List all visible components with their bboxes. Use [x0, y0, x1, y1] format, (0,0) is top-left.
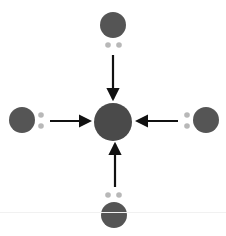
lone-pair-electron-left-1: [38, 123, 44, 129]
lone-pair-electron-bottom-0: [105, 192, 111, 198]
lone-pair-electron-bottom-1: [116, 192, 122, 198]
lone-pair-electron-right-0: [184, 112, 190, 118]
ligand-atom-left: [9, 107, 35, 133]
lone-pair-electron-top-0: [105, 42, 111, 48]
center-atom: [94, 103, 132, 141]
coordination-diagram: [0, 0, 226, 236]
ligand-atom-top: [100, 12, 126, 38]
lone-pair-electron-right-1: [184, 123, 190, 129]
divider-line: [0, 212, 226, 213]
ligand-atom-right: [193, 107, 219, 133]
lone-pair-electron-top-1: [116, 42, 122, 48]
ligand-atom-bottom: [101, 202, 127, 228]
lone-pair-electron-left-0: [38, 112, 44, 118]
